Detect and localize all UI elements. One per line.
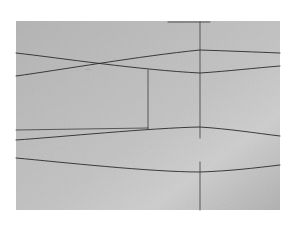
drawing-label: ~~~	[85, 68, 91, 72]
drawing-photo	[0, 0, 298, 228]
